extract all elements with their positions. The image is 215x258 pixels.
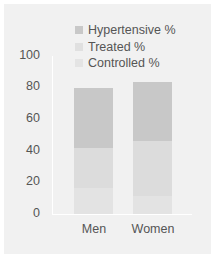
x-label-women: Women xyxy=(123,222,183,236)
legend-swatch-icon xyxy=(75,26,83,34)
bar-segment-controlled xyxy=(74,188,113,214)
y-tick-label: 80 xyxy=(0,79,40,93)
bar-segment-hypertensive xyxy=(74,88,113,148)
legend-item-treated: Treated % xyxy=(75,39,176,56)
bar-women xyxy=(133,82,172,214)
legend-label: Controlled % xyxy=(88,56,160,70)
legend-item-controlled: Controlled % xyxy=(75,55,176,72)
legend-swatch-icon xyxy=(75,43,83,51)
y-tick-label: 40 xyxy=(0,143,40,157)
bar-men xyxy=(74,88,113,214)
bar-segment-treated xyxy=(133,141,172,196)
y-tick-label: 0 xyxy=(0,206,40,220)
bar-segment-hypertensive xyxy=(133,82,172,141)
y-tick-label: 20 xyxy=(0,174,40,188)
legend-label: Hypertensive % xyxy=(88,23,176,37)
legend-label: Treated % xyxy=(88,40,145,54)
y-tick-label: 100 xyxy=(0,48,40,62)
legend-item-hypertensive: Hypertensive % xyxy=(75,22,176,39)
legend: Hypertensive % Treated % Controlled % xyxy=(75,22,176,72)
y-tick-label: 60 xyxy=(0,111,40,125)
x-label-men: Men xyxy=(64,222,124,236)
y-axis-line xyxy=(52,56,53,214)
legend-swatch-icon xyxy=(75,59,83,67)
x-axis-baseline xyxy=(52,214,192,215)
bar-segment-controlled xyxy=(133,196,172,214)
bar-segment-treated xyxy=(74,148,113,188)
